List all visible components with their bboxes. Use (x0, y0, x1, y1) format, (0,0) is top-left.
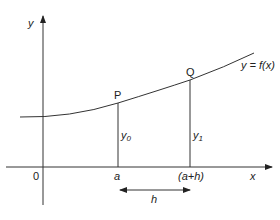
interval-h-label: h (151, 193, 157, 205)
origin-label: 0 (33, 170, 39, 182)
function-curve (20, 53, 254, 117)
point-p-label: P (114, 89, 121, 101)
ordinate-y0-label: y0 (120, 129, 132, 143)
x-tick-a-plus-h-label: (a+h) (178, 170, 204, 182)
diagram-canvas: y x 0 P Q y0 y1 a (a+h) h y = f(x) (0, 0, 280, 220)
x-axis-label: x (249, 170, 256, 182)
point-q-label: Q (186, 66, 195, 78)
trapezoid-rule-diagram: y x 0 P Q y0 y1 a (a+h) h y = f(x) (0, 0, 280, 220)
y-axis-label: y (27, 17, 35, 29)
curve-label: y = f(x) (240, 59, 275, 71)
ordinate-y1-label: y1 (192, 129, 203, 143)
x-tick-a-label: a (114, 170, 120, 182)
